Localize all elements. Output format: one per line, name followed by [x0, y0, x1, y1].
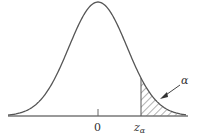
density-curve	[8, 2, 186, 115]
zero-label: 0	[94, 121, 101, 134]
z-alpha-label: zα	[133, 121, 146, 135]
alpha-annotation: α	[181, 74, 189, 87]
arrowhead-icon	[160, 92, 168, 99]
normal-distribution-chart: 0 zα α	[0, 0, 197, 137]
